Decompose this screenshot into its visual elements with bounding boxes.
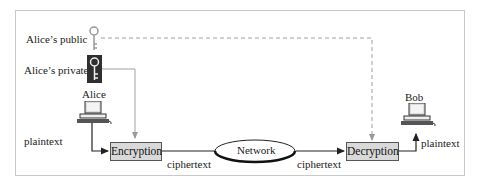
private-key-icon (87, 55, 102, 83)
public-key-icon (88, 26, 100, 52)
alice-computer-icon (76, 101, 112, 125)
bob-plaintext-label: plaintext (421, 137, 460, 149)
encryption-ciphertext-label: ciphertext (167, 158, 211, 170)
bob-computer-icon (400, 103, 436, 127)
network-label: Network (237, 144, 276, 156)
bob-label: Bob (405, 91, 423, 103)
alice-label: Alice (82, 88, 106, 100)
decryption-box: Decryption (346, 142, 399, 161)
network-ciphertext-label: ciphertext (297, 158, 341, 170)
encryption-box: Encryption (110, 142, 162, 161)
private-key-label: Alice’s private (24, 64, 88, 76)
alice-plaintext-label: plaintext (24, 135, 63, 147)
public-key-label: Alice’s public (26, 33, 87, 45)
